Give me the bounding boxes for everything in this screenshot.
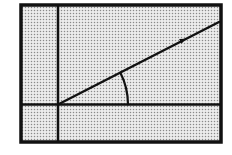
graph-screen-diagram (0, 0, 232, 155)
